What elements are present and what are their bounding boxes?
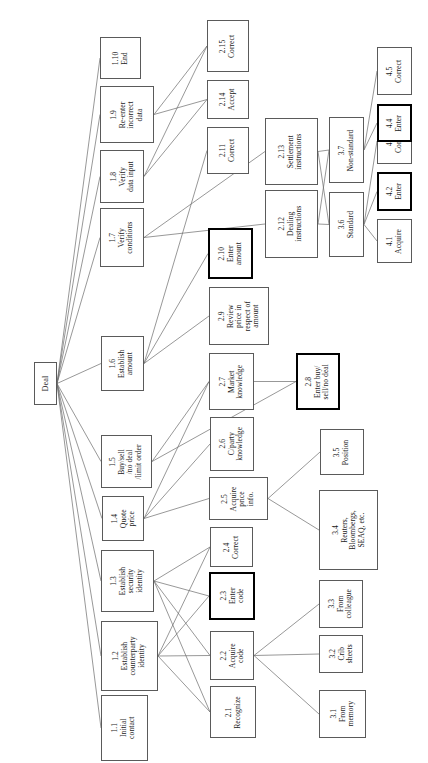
node-text-line: Position (342, 439, 351, 464)
node-text-line: Bloombergs, (349, 510, 358, 549)
node-1.3[interactable]: 1.3Establishsecurityidentity (101, 550, 154, 612)
node-2.1[interactable]: 2.1Recognize (210, 686, 256, 738)
edge-1.2-2.1 (158, 656, 210, 712)
node-text-line: Correct (232, 535, 241, 558)
node-label-1.9: 1.9Re-enterincorrectdata (110, 101, 144, 128)
node-text-line: Acquire (395, 229, 404, 254)
node-label-1.5: 1.5Buy/sell/no deal/limit order (109, 444, 143, 479)
node-3.4[interactable]: 3.4Reuters,Bloombergs,SEAQ, etc. (319, 490, 378, 570)
node-2.12[interactable]: 2.12Dealinginstructions (265, 190, 318, 258)
edge-deal-1.9 (57, 115, 100, 384)
node-label-4.2: 4.2Enter (386, 183, 403, 200)
node-text-line: Correct (228, 139, 237, 162)
node-label-1.7: 1.7Verifyconditions (109, 221, 135, 253)
node-label-4.5: 4.5Correct (386, 59, 403, 82)
edge-1.3-2.2 (154, 581, 210, 656)
node-text-line: memory (347, 701, 356, 727)
node-1.4[interactable]: 1.4Quoteprice (102, 496, 144, 541)
edge-1.5-2.7 (152, 382, 209, 462)
node-text-line: amount (235, 242, 244, 265)
edge-2.2-3.1 (254, 656, 319, 715)
edge-1.9-2.15 (154, 46, 207, 115)
node-1.1[interactable]: 1.1Initialcontact (101, 695, 148, 761)
edge-1.4-2.7 (144, 382, 209, 519)
edge-deal-1.8 (57, 177, 100, 384)
node-label-4.4: 4.4Enter (386, 115, 403, 132)
node-text-line: identity (138, 637, 147, 676)
node-text-line: sell/no deal (322, 364, 331, 399)
node-1.2[interactable]: 1.2Establishcounterpartyidentity (101, 621, 158, 691)
node-label-4.1: 4.1Acquire (386, 229, 403, 254)
node-4.1[interactable]: 4.1Acquire (377, 219, 412, 263)
edge-1.3-2.3 (154, 581, 209, 596)
node-text-line: Deal (41, 376, 50, 392)
node-label-3.6: 3.6Standard (338, 211, 355, 238)
node-text-line: Accept (228, 89, 237, 111)
node-label-3.5: 3.5Position (334, 439, 351, 464)
node-label-2.3: 2.3Entercode (219, 588, 245, 605)
node-3.5[interactable]: 3.5Position (320, 429, 364, 475)
node-3.2[interactable]: 3.2Cribsheets (319, 635, 363, 673)
edge-1.4-2.6 (144, 444, 210, 519)
edge-1.2-2.2 (158, 656, 210, 657)
node-4.4[interactable]: 4.4Enter (377, 104, 412, 142)
node-label-2.10: 2.10Enteramount (218, 242, 244, 265)
node-2.9[interactable]: 2.9Reviewprice inrespect ofamount (209, 287, 269, 345)
node-text-line: Enter (394, 183, 403, 200)
node-4.5[interactable]: 4.5Correct (377, 47, 412, 95)
node-number-2.2: 2.2 (219, 643, 228, 668)
node-label-deal: Deal (41, 376, 50, 392)
node-number-3.2: 3.2 (328, 645, 337, 664)
node-text-line: data (136, 101, 145, 128)
node-number-3.1: 3.1 (330, 701, 339, 727)
node-2.14[interactable]: 2.14Accept (207, 80, 249, 119)
node-1.6[interactable]: 1.6Establishamount (101, 336, 144, 391)
node-text-line: /limit order (135, 444, 144, 479)
edge-deal-1.7 (57, 238, 100, 384)
node-label-3.2: 3.2Cribsheets (328, 645, 354, 664)
node-3.7[interactable]: 3.7Non-standard (329, 117, 364, 183)
edge-deal-1.3 (57, 384, 101, 582)
node-2.7[interactable]: 2.7Marketknowledge (209, 353, 254, 410)
node-2.8[interactable]: 2.8Enter buy/sell/no deal (296, 353, 340, 410)
node-text-line: SEAQ, etc. (357, 510, 366, 549)
node-1.5[interactable]: 1.5Buy/sell/no deal/limit order (101, 435, 152, 488)
node-2.3[interactable]: 2.3Entercode (209, 572, 255, 620)
node-label-2.15: 2.15Correct (220, 34, 237, 57)
edge-deal-1.10 (57, 58, 100, 384)
node-3.1[interactable]: 3.1Frommemory (319, 690, 366, 738)
node-3.6[interactable]: 3.6Standard (329, 192, 364, 257)
node-text-line: knowledge (236, 427, 245, 461)
node-label-2.12: 2.12Dealinginstructions (279, 206, 305, 242)
node-1.10[interactable]: 1.10End (100, 37, 141, 79)
node-4.2[interactable]: 4.2Enter (377, 172, 412, 211)
node-text-line: Correct (395, 59, 404, 82)
node-2.2[interactable]: 2.2Acquirecode (210, 631, 254, 680)
node-3.3[interactable]: 3.3Fromcolleague (319, 580, 363, 628)
node-2.10[interactable]: 2.10Enteramount (208, 228, 253, 279)
node-2.5[interactable]: 2.5Acquirepriceinfo. (209, 477, 268, 520)
node-label-2.5: 2.5Acquirepriceinfo. (222, 486, 256, 511)
node-text-line: data input (126, 161, 135, 192)
node-2.4[interactable]: 2.4Correct (210, 527, 253, 567)
node-1.9[interactable]: 1.9Re-enterincorrectdata (100, 86, 154, 143)
edge-2.13-3.6 (318, 152, 329, 225)
node-1.7[interactable]: 1.7Verifyconditions (100, 208, 144, 267)
node-label-2.6: 2.6C/partyknowledge (219, 427, 245, 461)
node-2.15[interactable]: 2.15Correct (207, 20, 249, 72)
node-label-2.4: 2.4Correct (223, 535, 240, 558)
node-text-line: Enter (394, 115, 403, 132)
node-text-line: instructions (296, 133, 305, 169)
node-deal[interactable]: Deal (34, 362, 57, 405)
node-text-line: colleague (345, 589, 354, 619)
node-1.8[interactable]: 1.8Verifydata input (100, 150, 144, 203)
node-text-line: amount (127, 349, 136, 377)
node-text-line: Recognize (233, 696, 242, 729)
node-number-1.8: 1.8 (109, 161, 118, 192)
edge-2.13-3.7 (318, 150, 329, 152)
node-text-line: Non-standard (347, 129, 356, 171)
edge-1.6-2.10 (144, 254, 208, 364)
node-2.13[interactable]: 2.13Settlementinstructions (265, 118, 318, 185)
node-2.6[interactable]: 2.6C/partyknowledge (210, 417, 254, 471)
node-2.11[interactable]: 2.11Correct (207, 127, 249, 174)
